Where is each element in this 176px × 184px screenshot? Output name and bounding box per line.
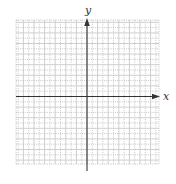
y-axis-label: y [84, 4, 92, 17]
axes [16, 18, 160, 171]
coordinate-plane: x y [0, 0, 176, 184]
x-axis-arrow-icon [152, 94, 160, 100]
x-axis-label: x [163, 90, 170, 103]
